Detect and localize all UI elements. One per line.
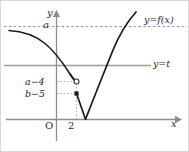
curve-left-branch xyxy=(9,31,76,82)
x-axis-label: x xyxy=(171,119,177,129)
y-axis-label: y xyxy=(47,8,53,18)
function-graph-figure: y x O a 2 a−4 b−5 y=f(x) y=t xyxy=(0,0,189,152)
y-label-b-minus-5: b−5 xyxy=(25,89,45,99)
open-circle-marker-a-minus-4 xyxy=(74,79,79,84)
label-a: a xyxy=(43,20,49,30)
origin-label: O xyxy=(45,121,53,131)
x-tick-label-2: 2 xyxy=(68,121,74,131)
filled-square-marker-b-minus-5 xyxy=(74,91,78,95)
line-label-y-equals-t: y=t xyxy=(153,59,170,69)
curve-v-descending xyxy=(77,94,86,120)
curve-label-y-equals-fx: y=f(x) xyxy=(144,15,174,25)
y-axis-arrow-icon xyxy=(53,10,60,17)
y-label-a-minus-4: a−4 xyxy=(25,77,45,87)
